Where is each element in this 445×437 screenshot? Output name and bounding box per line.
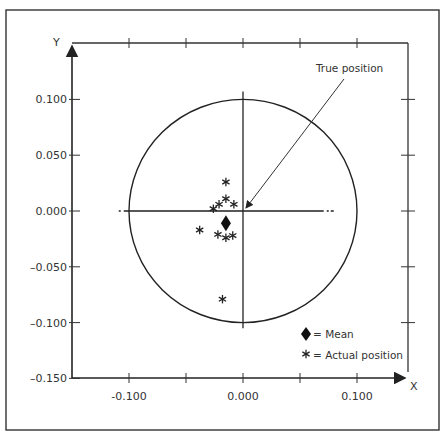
actual-position-point [219,295,226,303]
legend-mean-symbol [301,327,311,341]
legend: = Mean= Actual position [301,327,403,361]
y-tick-label: 0.050 [36,149,68,162]
points [196,178,237,304]
mean-point [221,215,231,231]
annotation: True position [246,62,383,208]
actual-position-point [222,195,229,203]
true-position-arrow [246,79,344,208]
actual-position-point [222,178,229,186]
tolerance-circle-layer [119,92,368,329]
actual-position-point [222,234,229,242]
actual-position-point [196,226,203,234]
x-axis-label: X [410,380,418,393]
actual-position-point [214,230,221,238]
legend-mean-text: = Mean [313,328,354,340]
y-tick-label: –0.100 [30,317,67,330]
actual-position-point [230,200,237,208]
x-tick-label: -0.100 [111,390,146,403]
y-tick-label: 0.000 [36,205,68,218]
legend-actual-text: = Actual position [313,349,403,361]
y-tick-label: –0.050 [30,261,67,274]
chart: -0.1000.0000.1000.1000.0500.000–0.050–0.… [0,0,445,437]
x-tick-label: 0.000 [227,390,259,403]
legend-actual-symbol [302,350,309,358]
y-tick-label: 0.100 [36,93,68,106]
true-position-label: True position [315,62,383,74]
actual-position-point [229,231,236,239]
y-axis-label: Y [52,36,60,49]
y-tick-label: –0.150 [30,372,67,385]
x-tick-label: 0.100 [341,390,373,403]
